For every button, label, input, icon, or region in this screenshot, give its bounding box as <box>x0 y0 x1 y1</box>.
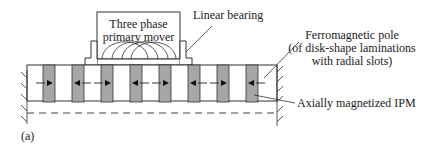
figure-tag: (a) <box>21 129 34 143</box>
pole-label-2: (of disk-shape laminations <box>288 41 416 55</box>
bearing-right <box>180 41 192 65</box>
hatch-mark <box>21 83 27 89</box>
hatch-mark <box>21 116 27 122</box>
bearing-leader <box>186 26 212 52</box>
linear-machine-diagram: Three phase primary mover Linear bearing… <box>0 0 427 152</box>
primary-mover: Three phase primary mover <box>85 12 192 65</box>
hatch-mark <box>277 66 283 72</box>
wall-right <box>277 65 283 126</box>
hatch-mark <box>21 94 27 100</box>
mover-label-1: Three phase <box>109 17 167 31</box>
pole-label-3: with radial slots) <box>312 54 393 68</box>
bearing-label: Linear bearing <box>193 8 263 22</box>
pole-label-1: Ferromagnetic pole <box>305 28 399 42</box>
hatch-mark <box>21 105 27 111</box>
ipm-label: Axially magnetized IPM <box>297 96 416 110</box>
hatch-mark <box>277 96 283 102</box>
hatch-mark <box>21 72 27 78</box>
mover-label-2: primary mover <box>103 30 175 44</box>
hatch-mark <box>277 76 283 82</box>
wall-left <box>21 70 27 124</box>
hatch-mark <box>277 106 283 112</box>
hatch-mark <box>277 116 283 122</box>
bearing-left <box>85 41 97 65</box>
hatch-mark <box>277 86 283 92</box>
mover-base <box>97 59 180 65</box>
